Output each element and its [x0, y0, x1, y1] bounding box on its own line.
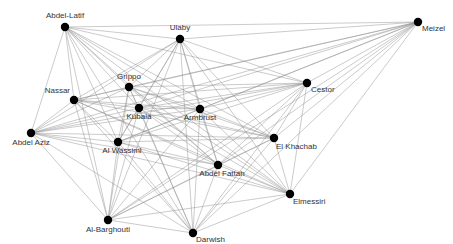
node-el-khachab [270, 134, 278, 142]
edge-cestor-elmessiri [290, 83, 307, 194]
edge-ulaby-nassar [74, 39, 180, 100]
node-armbrust [196, 105, 204, 113]
edge-abdel-latif-al-wassimi [65, 27, 118, 142]
node-label-cestor: Cestor [311, 85, 335, 94]
edges-layer [31, 22, 418, 233]
node-al-barghouti [104, 216, 112, 224]
edge-abdel-latif-abdel-aziz [31, 27, 65, 133]
node-label-al-barghouti: Al-Barghouti [86, 225, 130, 234]
node-label-abdel-latif: Abdel-Latif [46, 11, 85, 20]
node-abdel-fattah [214, 161, 222, 169]
node-kubala [135, 104, 143, 112]
edge-nassar-el-khachab [74, 100, 274, 138]
edge-abdel-aziz-elmessiri [31, 133, 290, 194]
node-label-abdel-fattah: Abdel Fattah [199, 169, 244, 178]
node-label-al-wassimi: Al Wassimi [102, 146, 141, 155]
node-label-ulaby: Ulaby [170, 23, 190, 32]
edge-armbrust-al-barghouti [108, 109, 200, 220]
edge-cestor-abdel-fattah [218, 83, 307, 165]
node-label-armbrust: Armbrust [184, 113, 217, 122]
node-label-elmessiri: Elmessiri [293, 197, 326, 206]
edge-meizel-abdel-aziz [31, 22, 418, 133]
node-abdel-latif [61, 23, 69, 31]
node-label-abdel-aziz: Abdel Aziz [12, 138, 49, 147]
node-nassar [70, 96, 78, 104]
node-label-meizel: Meizel [422, 24, 445, 33]
edge-nassar-al-barghouti [74, 100, 108, 220]
edge-abdel-latif-meizel [65, 22, 418, 27]
node-label-kubala: Kubala [127, 112, 152, 121]
edge-abdel-aziz-el-khachab [31, 133, 274, 138]
edge-kubala-cestor [139, 83, 307, 108]
edge-meizel-el-khachab [274, 22, 418, 138]
node-label-nassar: Nassar [45, 86, 71, 95]
nodes-layer [27, 18, 422, 237]
node-label-darwish: Darwish [196, 235, 225, 244]
node-ulaby [176, 35, 184, 43]
node-cestor [303, 79, 311, 87]
edge-al-wassimi-darwish [118, 142, 193, 233]
node-grippo [125, 83, 133, 91]
node-meizel [414, 18, 422, 26]
node-label-el-khachab: El Khachab [276, 142, 317, 151]
edge-abdel-latif-darwish [65, 27, 193, 233]
node-label-grippo: Grippo [117, 72, 142, 81]
node-abdel-aziz [27, 129, 35, 137]
network-graph: Abdel-LatifUlabyMeizelGrippoNassarKubala… [0, 0, 453, 244]
node-al-wassimi [114, 138, 122, 146]
